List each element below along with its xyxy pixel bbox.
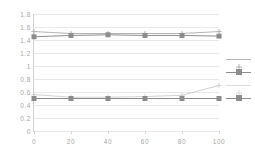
x-axis-tick-label: 0 [21, 138, 47, 145]
series-line [34, 32, 219, 34]
y-axis-tick-label: 1.8 [1, 11, 31, 18]
legend-item-1[interactable] [226, 68, 255, 78]
chart-container: 1.81.61.41.210.80.60.40.20 020406080100 [0, 0, 255, 155]
x-axis-tick-mark [182, 131, 183, 134]
legend-marker-square-icon [236, 95, 242, 101]
y-axis-tick-label: 0 [1, 128, 31, 135]
y-axis-tick-label: 0.6 [1, 89, 31, 96]
data-point-marker [217, 96, 222, 101]
gridline [34, 131, 219, 132]
y-axis-tick-label: 0.8 [1, 76, 31, 83]
y-axis-tick-label: 1.4 [1, 37, 31, 44]
data-point-marker [143, 33, 148, 38]
y-axis-tick-label: 1.6 [1, 24, 31, 31]
x-axis-tick-mark [145, 131, 146, 134]
data-point-marker [180, 33, 185, 38]
x-axis-tick-label: 60 [132, 138, 158, 145]
x-axis-tick-label: 40 [95, 138, 121, 145]
data-point-marker [69, 96, 74, 101]
data-point-marker [106, 96, 111, 101]
plot-area [34, 14, 219, 131]
data-point-marker [32, 34, 37, 39]
x-axis-tick-label: 80 [169, 138, 195, 145]
data-point-marker [217, 34, 222, 39]
x-axis-tick-mark [108, 131, 109, 134]
series-line [34, 86, 219, 98]
legend-item-3[interactable] [226, 94, 255, 104]
y-axis-tick-label: 0.4 [1, 102, 31, 109]
legend-item-2[interactable] [226, 81, 255, 91]
x-axis-tick-mark [71, 131, 72, 134]
legend-marker-square-icon [236, 69, 242, 75]
legend-marker-cross-icon [236, 56, 242, 62]
x-axis-tick-mark [34, 131, 35, 134]
x-axis-tick-label: 100 [206, 138, 232, 145]
data-point-marker [180, 96, 185, 101]
y-axis-tick-label: 1 [1, 63, 31, 70]
x-axis-tick-label: 20 [58, 138, 84, 145]
data-point-marker [32, 96, 37, 101]
chart-legend [226, 55, 255, 105]
legend-item-0[interactable] [226, 55, 255, 65]
data-point-marker [143, 96, 148, 101]
series-line [34, 35, 219, 37]
data-point-marker [69, 33, 74, 38]
x-axis-tick-mark [219, 131, 220, 134]
data-point-marker [106, 32, 111, 37]
y-axis-tick-label: 1.2 [1, 50, 31, 57]
series-2 [32, 83, 222, 100]
series-layer [34, 14, 219, 131]
legend-marker-cross-icon [236, 82, 242, 88]
y-axis-tick-labels: 1.81.61.41.210.80.60.40.20 [0, 0, 31, 155]
y-axis-tick-label: 0.2 [1, 115, 31, 122]
